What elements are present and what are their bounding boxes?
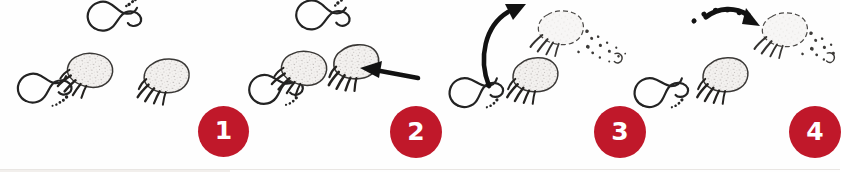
- panel-marker-3[interactable]: 3: [594, 106, 646, 158]
- bear-paw-print-dissolving: [754, 7, 840, 69]
- panel-marker-3-label: 3: [611, 119, 628, 144]
- bear-paw-print: [507, 55, 560, 106]
- panel-marker-2[interactable]: 2: [390, 106, 442, 158]
- human-footprint: [445, 65, 507, 119]
- bear-paw-print: [697, 55, 750, 106]
- human-footprint: [294, 0, 351, 33]
- panel-marker-1[interactable]: 1: [198, 106, 249, 157]
- panel-marker-1-label: 1: [215, 118, 232, 143]
- panel-marker-4-label: 4: [806, 119, 823, 144]
- dashed-right-arrow: [694, 8, 760, 26]
- footer-divider-faint: [0, 170, 230, 172]
- human-footprint: [85, 0, 142, 35]
- human-footprint: [630, 65, 692, 119]
- panel-marker-2-label: 2: [407, 119, 424, 144]
- bear-paw-print: [137, 55, 191, 108]
- panel-marker-4[interactable]: 4: [789, 106, 841, 158]
